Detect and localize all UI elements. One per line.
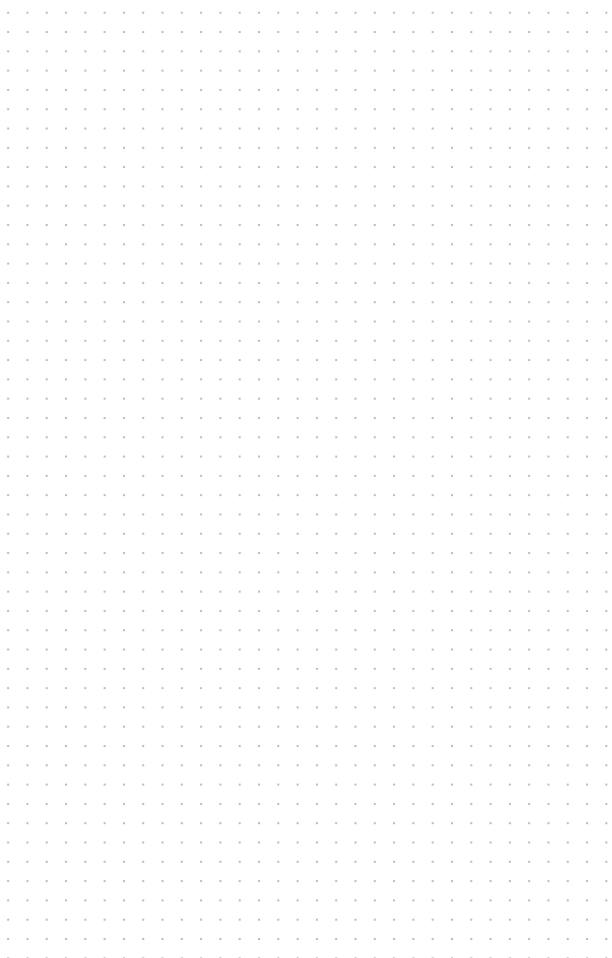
dot-grid-layer — [0, 0, 612, 958]
dot-grid-page — [0, 0, 612, 958]
